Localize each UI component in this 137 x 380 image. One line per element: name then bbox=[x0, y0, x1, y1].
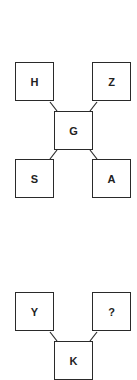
box-center-2: K bbox=[54, 341, 93, 380]
box-top-left-1: H bbox=[15, 62, 54, 101]
box-center-1: G bbox=[54, 111, 93, 150]
box-bottom-right-1: A bbox=[92, 159, 131, 198]
box-label: ? bbox=[108, 306, 115, 318]
box-label: Y bbox=[31, 306, 38, 318]
box-label: A bbox=[108, 173, 116, 185]
box-label: G bbox=[69, 125, 78, 137]
box-top-right-2: ? bbox=[92, 292, 131, 331]
box-top-left-2: Y bbox=[15, 292, 54, 331]
box-bottom-left-1: S bbox=[15, 159, 54, 198]
box-label: Z bbox=[108, 76, 115, 88]
box-label: K bbox=[70, 355, 78, 367]
box-label: H bbox=[31, 76, 39, 88]
box-top-right-1: Z bbox=[92, 62, 131, 101]
box-label: S bbox=[31, 173, 38, 185]
